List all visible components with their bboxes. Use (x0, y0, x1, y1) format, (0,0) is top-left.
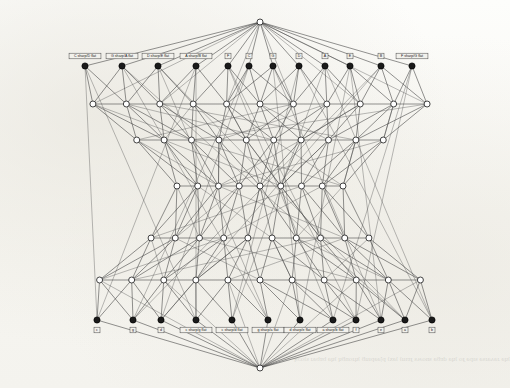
graph-node[interactable] (190, 101, 196, 107)
graph-node[interactable] (299, 183, 305, 189)
graph-node[interactable] (189, 137, 195, 143)
top-row-label-8[interactable]: A (322, 53, 328, 59)
graph-node[interactable] (174, 183, 180, 189)
graph-node[interactable] (342, 235, 348, 241)
bottom-row-node[interactable] (193, 317, 199, 323)
top-row-label-4[interactable]: F (225, 53, 231, 59)
bottom-row-node[interactable] (297, 317, 303, 323)
top-row-node[interactable] (378, 63, 384, 69)
bottom-row-node[interactable] (378, 317, 384, 323)
top-apex-node[interactable] (257, 19, 263, 25)
bottom-row-label-9[interactable]: e (378, 327, 384, 333)
bottom-row-label-7[interactable]: a sharp/b flat (317, 327, 349, 333)
graph-node[interactable] (357, 101, 363, 107)
graph-node[interactable] (224, 101, 230, 107)
graph-node[interactable] (391, 101, 397, 107)
top-row-label-0[interactable]: C sharp/D flat (69, 53, 101, 59)
top-row-label-3[interactable]: A sharp/B flat (180, 53, 212, 59)
graph-node[interactable] (123, 101, 129, 107)
graph-node[interactable] (271, 137, 277, 143)
graph-node[interactable] (245, 235, 251, 241)
top-row-node[interactable] (225, 63, 231, 69)
bottom-row-node[interactable] (353, 317, 359, 323)
bottom-row-node[interactable] (94, 317, 100, 323)
top-row-label-2[interactable]: D sharp/E flat (142, 53, 174, 59)
bottom-row-node[interactable] (429, 317, 435, 323)
top-row-label-7[interactable]: D (296, 53, 302, 59)
top-row-label-9[interactable]: E (347, 53, 353, 59)
graph-node[interactable] (129, 277, 135, 283)
graph-node[interactable] (148, 235, 154, 241)
graph-node[interactable] (257, 101, 263, 107)
bottom-row-node[interactable] (130, 317, 136, 323)
bottom-row-label-0[interactable]: c (94, 327, 100, 333)
top-row-label-5[interactable]: C (246, 53, 252, 59)
bottom-row-label-11[interactable]: b (429, 327, 435, 333)
graph-node[interactable] (298, 137, 304, 143)
graph-node[interactable] (257, 183, 263, 189)
graph-node[interactable] (236, 183, 242, 189)
graph-node[interactable] (257, 277, 263, 283)
top-row-node[interactable] (296, 63, 302, 69)
graph-node[interactable] (215, 183, 221, 189)
graph-node[interactable] (243, 137, 249, 143)
top-row-node[interactable] (409, 63, 415, 69)
graph-node[interactable] (353, 277, 359, 283)
bottom-row-node[interactable] (158, 317, 164, 323)
graph-node[interactable] (221, 235, 227, 241)
top-row-label-10[interactable]: B (378, 53, 384, 59)
bottom-row-node[interactable] (229, 317, 235, 323)
graph-node[interactable] (417, 277, 423, 283)
bottom-apex-node[interactable] (257, 365, 263, 371)
graph-node[interactable] (225, 277, 231, 283)
bottom-row-label-2[interactable]: d (158, 327, 164, 333)
graph-node[interactable] (278, 183, 284, 189)
top-row-node[interactable] (155, 63, 161, 69)
bottom-row-label-6[interactable]: d sharp/e flat (284, 327, 316, 333)
bottom-row-label-8[interactable]: f (353, 327, 359, 333)
graph-node[interactable] (319, 183, 325, 189)
graph-node[interactable] (269, 235, 275, 241)
graph-node[interactable] (161, 277, 167, 283)
graph-node[interactable] (195, 183, 201, 189)
top-row-node[interactable] (82, 63, 88, 69)
graph-node[interactable] (290, 101, 296, 107)
bottom-row-label-1[interactable]: g (130, 327, 136, 333)
bottom-row-label-5[interactable]: g sharp/a flat (252, 327, 284, 333)
graph-node[interactable] (289, 277, 295, 283)
top-row-node[interactable] (270, 63, 276, 69)
top-row-label-6[interactable]: G (270, 53, 276, 59)
graph-node[interactable] (90, 101, 96, 107)
graph-node[interactable] (324, 101, 330, 107)
top-row-node[interactable] (119, 63, 125, 69)
graph-node[interactable] (97, 277, 103, 283)
bottom-row-node[interactable] (330, 317, 336, 323)
graph-node[interactable] (172, 235, 178, 241)
graph-node[interactable] (353, 137, 359, 143)
graph-node[interactable] (293, 235, 299, 241)
graph-node[interactable] (424, 101, 430, 107)
top-row-label-1[interactable]: G sharp/A flat (106, 53, 138, 59)
graph-node[interactable] (385, 277, 391, 283)
graph-node[interactable] (196, 235, 202, 241)
graph-node[interactable] (193, 277, 199, 283)
bottom-row-node[interactable] (265, 317, 271, 323)
graph-node[interactable] (325, 137, 331, 143)
graph-node[interactable] (161, 137, 167, 143)
graph-node[interactable] (157, 101, 163, 107)
bottom-row-node[interactable] (402, 317, 408, 323)
graph-node[interactable] (380, 137, 386, 143)
graph-node[interactable] (366, 235, 372, 241)
graph-node[interactable] (134, 137, 140, 143)
graph-node[interactable] (340, 183, 346, 189)
graph-node[interactable] (216, 137, 222, 143)
bottom-row-label-10[interactable]: a (402, 327, 408, 333)
top-row-node[interactable] (246, 63, 252, 69)
graph-node[interactable] (318, 235, 324, 241)
top-row-node[interactable] (193, 63, 199, 69)
top-row-node[interactable] (347, 63, 353, 69)
top-row-label-11[interactable]: F sharp/G flat (396, 53, 428, 59)
top-row-node[interactable] (322, 63, 328, 69)
graph-node[interactable] (321, 277, 327, 283)
bottom-row-label-3[interactable]: c sharp/g flat (180, 327, 212, 333)
